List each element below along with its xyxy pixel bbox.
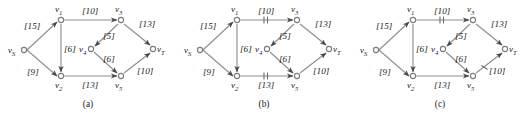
node-label-vT: vT bbox=[157, 44, 166, 56]
node-label-vS: vS bbox=[184, 45, 192, 57]
node-vT bbox=[326, 46, 331, 51]
capacity-v1-v3: [10] bbox=[258, 6, 275, 16]
node-v3 bbox=[118, 17, 123, 22]
panel-c: vS v1 v2 v3 v4 v5 vT [15] [9] [6] [1 bbox=[352, 0, 528, 115]
capacity-v1-v2: [6] bbox=[416, 44, 428, 54]
node-v5 bbox=[118, 73, 123, 78]
node-label-v3: v3 bbox=[115, 4, 123, 16]
capacity-vS-v1: [15] bbox=[200, 21, 217, 31]
capacity-vS-v2: [9] bbox=[203, 67, 215, 77]
capacity-v3-vT: [13] bbox=[315, 19, 332, 29]
node-label-v2: v2 bbox=[231, 80, 239, 92]
capacity-v2-v5: [13] bbox=[258, 80, 275, 90]
capacity-v1-v3: [10] bbox=[82, 6, 99, 16]
node-label-vS: vS bbox=[8, 45, 16, 57]
node-v4 bbox=[264, 46, 269, 51]
node-vT bbox=[150, 46, 155, 51]
capacity-v3-v4: [5] bbox=[279, 31, 291, 41]
node-vT bbox=[502, 46, 507, 51]
node-vS bbox=[21, 47, 26, 52]
node-vS bbox=[197, 47, 202, 52]
node-label-vT: vT bbox=[509, 44, 518, 56]
node-v2 bbox=[58, 73, 63, 78]
node-vS bbox=[373, 47, 378, 52]
node-v3 bbox=[294, 17, 299, 22]
node-label-v5: v5 bbox=[291, 80, 299, 92]
capacity-v3-v4: [5] bbox=[455, 31, 467, 41]
capacity-v4-v5: [6] bbox=[279, 54, 291, 64]
node-label-v2: v2 bbox=[407, 80, 415, 92]
capacity-vS-v2: [9] bbox=[379, 67, 391, 77]
node-label-v5: v5 bbox=[115, 80, 123, 92]
capacity-v4-v5: [6] bbox=[455, 54, 467, 64]
node-label-v3: v3 bbox=[291, 4, 299, 16]
node-label-v1: v1 bbox=[55, 4, 62, 16]
node-label-v4: v4 bbox=[255, 44, 263, 56]
node-label-v4: v4 bbox=[79, 44, 87, 56]
panel-caption-a: (a) bbox=[83, 99, 93, 110]
node-label-v1: v1 bbox=[407, 4, 414, 16]
panel-a: vS v1 v2 v3 v4 v5 vT [15] [9] [6] bbox=[0, 0, 176, 115]
capacity-v5-vT: [10] bbox=[313, 66, 330, 76]
node-v1 bbox=[410, 17, 415, 22]
node-label-v5: v5 bbox=[467, 80, 475, 92]
panel-b: vS v1 v2 v3 v4 v5 vT [15] [9] [6] [1 bbox=[176, 0, 352, 115]
panel-caption-c: (c) bbox=[435, 99, 445, 110]
capacity-v3-v4: [5] bbox=[103, 31, 115, 41]
node-v2 bbox=[410, 73, 415, 78]
figure-network-flow-panels: vS v1 v2 v3 v4 v5 vT [15] [9] [6] bbox=[0, 0, 528, 115]
capacity-v1-v2: [6] bbox=[240, 44, 252, 54]
node-v1 bbox=[58, 17, 63, 22]
capacity-vS-v1: [15] bbox=[376, 21, 393, 31]
node-v4 bbox=[440, 46, 445, 51]
capacity-v3-vT: [13] bbox=[491, 19, 508, 29]
capacity-v1-v2: [6] bbox=[64, 44, 76, 54]
capacity-v2-v5: [13] bbox=[82, 80, 99, 90]
node-v4 bbox=[88, 46, 93, 51]
capacity-v5-vT: [10] bbox=[137, 66, 154, 76]
capacity-vS-v1: [15] bbox=[24, 21, 41, 31]
node-label-vS: vS bbox=[360, 45, 368, 57]
node-label-v3: v3 bbox=[467, 4, 475, 16]
capacity-v1-v3: [10] bbox=[434, 6, 451, 16]
node-label-v1: v1 bbox=[231, 4, 238, 16]
node-label-v4: v4 bbox=[431, 44, 439, 56]
node-label-vT: vT bbox=[333, 44, 342, 56]
capacity-v3-vT: [13] bbox=[139, 19, 156, 29]
node-v5 bbox=[294, 73, 299, 78]
capacity-v2-v5: [13] bbox=[434, 80, 451, 90]
node-label-v2: v2 bbox=[55, 80, 63, 92]
node-v1 bbox=[234, 17, 239, 22]
capacity-v5-vT: [10] bbox=[489, 66, 506, 76]
node-v5 bbox=[470, 73, 475, 78]
node-v3 bbox=[470, 17, 475, 22]
panel-caption-b: (b) bbox=[259, 99, 270, 110]
capacity-v4-v5: [6] bbox=[103, 54, 115, 64]
capacity-vS-v2: [9] bbox=[27, 67, 39, 77]
node-v2 bbox=[234, 73, 239, 78]
